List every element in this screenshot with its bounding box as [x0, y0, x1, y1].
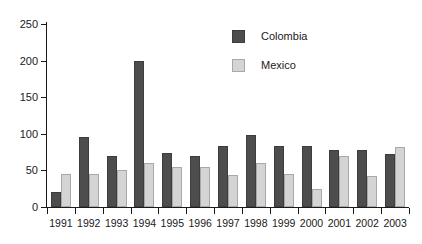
bar-mexico-1991	[61, 174, 71, 207]
y-tick-0	[41, 207, 46, 208]
x-label-2003: 2003	[375, 218, 415, 229]
bar-mexico-1995	[172, 167, 182, 207]
x-tick-11	[353, 208, 354, 214]
bar-colombia-1995	[162, 153, 172, 207]
bar-colombia-2002	[357, 150, 367, 207]
x-tick-8	[270, 208, 271, 214]
bar-group-1991	[47, 18, 75, 207]
legend-swatch-mexico	[232, 59, 245, 72]
y-tick-200	[41, 61, 46, 62]
bar-group-1995	[158, 18, 186, 207]
y-tick-label-50: 50	[0, 165, 38, 176]
y-tick-label-250: 250	[0, 19, 38, 30]
bar-mexico-1997	[228, 175, 238, 207]
y-tick-100	[41, 134, 46, 135]
bar-colombia-1992	[79, 137, 89, 207]
y-tick-label-150: 150	[0, 92, 38, 103]
x-tick-4	[158, 208, 159, 214]
y-tick-label-200: 200	[0, 56, 38, 67]
bar-mexico-1993	[117, 170, 127, 207]
bar-colombia-1994	[134, 61, 144, 207]
bar-mexico-2001	[339, 156, 349, 207]
x-axis-line	[46, 207, 409, 208]
bar-group-1994	[131, 18, 159, 207]
legend-item-colombia: Colombia	[232, 30, 307, 43]
bar-colombia-1991	[51, 192, 61, 207]
bar-colombia-2000	[302, 146, 312, 207]
bar-mexico-2000	[312, 189, 322, 207]
bar-mexico-1998	[256, 163, 266, 207]
bar-mexico-1994	[144, 163, 154, 207]
x-tick-0	[47, 208, 48, 214]
bar-mexico-2003	[395, 147, 405, 207]
bar-mexico-1996	[200, 167, 210, 207]
y-tick-label-0: 0	[0, 202, 38, 213]
legend-item-mexico: Mexico	[232, 59, 307, 72]
plot-area	[47, 18, 409, 207]
x-tick-12	[381, 208, 382, 214]
chart-legend: Colombia Mexico	[232, 30, 307, 88]
x-tick-5	[186, 208, 187, 214]
x-tick-13	[409, 208, 410, 214]
bar-colombia-2003	[385, 154, 395, 207]
y-tick-label-100: 100	[0, 129, 38, 140]
bar-mexico-2002	[367, 176, 377, 207]
bar-group-1996	[186, 18, 214, 207]
y-tick-50	[41, 170, 46, 171]
bar-colombia-2001	[329, 150, 339, 207]
x-tick-1	[75, 208, 76, 214]
x-tick-10	[325, 208, 326, 214]
x-tick-6	[214, 208, 215, 214]
bar-group-2001	[325, 18, 353, 207]
bar-colombia-1999	[274, 146, 284, 207]
bar-mexico-1992	[89, 174, 99, 207]
y-tick-250	[41, 24, 46, 25]
bar-mexico-1999	[284, 174, 294, 207]
bar-colombia-1996	[190, 156, 200, 207]
x-tick-2	[103, 208, 104, 214]
bar-group-1992	[75, 18, 103, 207]
legend-swatch-colombia	[232, 30, 245, 43]
x-tick-7	[242, 208, 243, 214]
bar-chart: 050100150200250 199119921993199419951996…	[0, 0, 422, 244]
x-tick-9	[298, 208, 299, 214]
bar-group-2003	[381, 18, 409, 207]
bar-colombia-1997	[218, 146, 228, 207]
bar-colombia-1993	[107, 156, 117, 207]
bar-group-1993	[103, 18, 131, 207]
legend-label-colombia: Colombia	[261, 31, 307, 42]
y-tick-150	[41, 97, 46, 98]
x-tick-3	[131, 208, 132, 214]
bar-colombia-1998	[246, 135, 256, 207]
bar-group-2002	[353, 18, 381, 207]
legend-label-mexico: Mexico	[261, 60, 296, 71]
